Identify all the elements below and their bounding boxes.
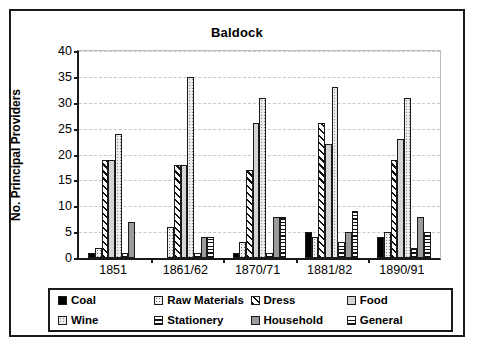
legend-item-household[interactable]: Household [251,310,347,330]
legend-swatch-icon [251,316,260,325]
x-axis-label-1870-71: 1870/71 [235,263,280,277]
y-axis-title-label: No. Principal Providers [9,89,23,221]
x-axis-label-1890-91: 1890/91 [379,263,424,277]
bar-food-1881-82 [325,144,332,258]
bar-household-1890-91 [417,217,424,258]
legend-label: Wine [71,314,98,326]
bar-dress-1881-82 [318,123,325,258]
bar-dress-1861-62 [174,165,181,258]
chart-title: Baldock [11,25,463,40]
x-axis-label-1881-82: 1881/82 [307,263,352,277]
y-tick-label: 30 [58,96,72,110]
bar-coal-1851 [88,253,95,258]
bar-stationery-1851 [122,253,129,258]
legend-swatch-icon [347,296,356,305]
bar-dress-1851 [102,160,109,258]
bar-group [79,51,151,258]
legend-swatch-icon [58,296,67,305]
bar-wine-1890-91 [404,98,411,258]
bar-general-1881-82 [352,211,359,258]
x-axis-label-1861-62: 1861/62 [163,263,208,277]
bar-wine-1881-82 [332,87,339,258]
bar-raw-materials-1870-71 [239,242,246,258]
y-tick-label: 15 [58,173,72,187]
y-tick-label: 25 [58,122,72,136]
bar-group [368,51,440,258]
bar-stationery-1881-82 [338,242,345,258]
legend-swatch-icon [154,316,163,325]
legend-item-stationery[interactable]: Stationery [154,310,250,330]
bar-coal-1870-71 [233,253,240,258]
y-tick-label: 0 [65,251,72,265]
bar-household-1851 [128,222,135,258]
bar-general-1870-71 [280,217,287,258]
bar-raw-materials-1851 [95,248,102,258]
bar-wine-1861-62 [187,77,194,258]
legend-swatch-icon [347,316,356,325]
legend-label: Raw Materials [167,294,244,306]
legend-swatch-icon [154,296,163,305]
y-axis-title: No. Principal Providers [7,50,25,260]
plot-area: 0510152025303540 [77,50,441,260]
bar-general-1890-91 [424,232,431,258]
bar-dress-1870-71 [246,170,253,258]
legend-label: General [360,314,403,326]
bar-stationery-1861-62 [194,253,201,258]
bar-stationery-1890-91 [411,248,418,258]
y-tick-label: 35 [58,70,72,84]
bar-general-1861-62 [207,237,214,258]
bar-wine-1851 [115,134,122,258]
bar-coal-1890-91 [377,237,384,258]
legend-item-dress[interactable]: Dress [251,290,347,310]
legend-item-food[interactable]: Food [347,290,443,310]
legend-item-general[interactable]: General [347,310,443,330]
bar-household-1861-62 [201,237,208,258]
legend-label: Household [264,314,323,326]
legend-label: Stationery [167,314,223,326]
bar-group [151,51,223,258]
legend-item-raw-materials[interactable]: Raw Materials [154,290,250,310]
bar-household-1870-71 [273,217,280,258]
bar-group [296,51,368,258]
bar-wine-1870-71 [259,98,266,258]
y-tick-label: 40 [58,44,72,58]
bar-raw-materials-1881-82 [312,237,319,258]
y-tick-label: 10 [58,199,72,213]
y-tick-mark [74,258,79,260]
legend-item-wine[interactable]: Wine [58,310,154,330]
chart-frame: Baldock No. Principal Providers 05101520… [9,9,465,337]
x-axis-labels: 18511861/621870/711881/821890/91 [77,263,441,283]
bar-stationery-1870-71 [266,253,273,258]
bar-food-1890-91 [397,139,404,258]
legend-label: Food [360,294,388,306]
bar-coal-1881-82 [305,232,312,258]
legend-swatch-icon [251,296,260,305]
bar-group [223,51,295,258]
y-tick-label: 5 [65,225,72,239]
legend-item-coal[interactable]: Coal [58,290,154,310]
bar-food-1870-71 [253,123,260,258]
bar-food-1851 [108,160,115,258]
legend-label: Coal [71,294,96,306]
legend-label: Dress [264,294,296,306]
bar-household-1881-82 [345,232,352,258]
chart-legend: CoalRaw MaterialsDressFoodWineStationery… [48,288,453,332]
bar-dress-1890-91 [391,160,398,258]
bar-food-1861-62 [181,165,188,258]
legend-swatch-icon [58,316,67,325]
bar-raw-materials-1890-91 [384,232,391,258]
y-tick-label: 20 [58,148,72,162]
bar-raw-materials-1861-62 [167,227,174,258]
x-axis-label-1851: 1851 [99,263,127,277]
